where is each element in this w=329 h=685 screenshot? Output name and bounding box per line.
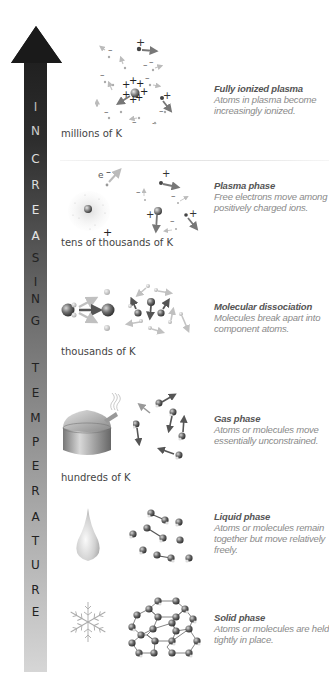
axis-letter: E bbox=[24, 605, 47, 619]
phase-description: Free electrons move among positively cha… bbox=[214, 191, 329, 213]
axis-letter: E bbox=[24, 203, 47, 217]
phase-description: Molecules break apart into component ato… bbox=[214, 312, 329, 334]
axis-letter: R bbox=[24, 178, 47, 192]
axis-letter: A bbox=[24, 510, 47, 524]
phase-title: Solid phase bbox=[214, 612, 329, 623]
axis-letter: T bbox=[24, 361, 47, 375]
section-divider bbox=[60, 160, 329, 161]
svg-text:–: – bbox=[170, 216, 175, 226]
svg-text:–: – bbox=[159, 106, 164, 116]
temperature-label: hundreds of K bbox=[61, 472, 131, 483]
svg-text:–: – bbox=[136, 187, 141, 197]
svg-text:–: – bbox=[108, 45, 113, 55]
phase-caption: Fully ionized plasma Atoms in plasma bec… bbox=[214, 83, 329, 116]
axis-letter: N bbox=[24, 292, 47, 306]
phase-description: Atoms or molecules are held tightly in p… bbox=[214, 623, 329, 645]
temperature-label: thousands of K bbox=[61, 346, 136, 357]
svg-text:+: + bbox=[189, 208, 197, 219]
axis-letter: I bbox=[24, 100, 47, 114]
phase-caption: Liquid phase Atoms or molecules remain t… bbox=[214, 511, 329, 555]
svg-text:+: + bbox=[136, 36, 145, 49]
svg-text:–: – bbox=[145, 73, 150, 83]
axis-letter: I bbox=[24, 275, 47, 289]
svg-text:–: – bbox=[149, 57, 154, 67]
phase-title: Liquid phase bbox=[214, 511, 329, 522]
svg-text:+: + bbox=[163, 90, 171, 101]
axis-letter: C bbox=[24, 152, 47, 166]
liquid-molecules-icon bbox=[127, 508, 197, 566]
axis-letter: R bbox=[24, 583, 47, 597]
phase-caption: Gas phase Atoms or molecules move essent… bbox=[214, 413, 329, 446]
axis-letter: T bbox=[24, 534, 47, 548]
svg-text:–: – bbox=[100, 70, 105, 80]
boiling-pot-icon bbox=[60, 390, 130, 460]
svg-text:+: + bbox=[146, 209, 154, 220]
electron-label: e bbox=[98, 170, 104, 180]
axis-letter: N bbox=[24, 124, 47, 138]
phase-title: Plasma phase bbox=[214, 180, 329, 191]
axis-letter: S bbox=[24, 251, 47, 265]
phase-title: Fully ionized plasma bbox=[214, 83, 329, 94]
axis-letter: P bbox=[24, 435, 47, 449]
axis-letter: E bbox=[24, 386, 47, 400]
svg-text:+: + bbox=[135, 92, 143, 103]
phase-caption: Plasma phase Free electrons move among p… bbox=[214, 180, 329, 213]
phase-caption: Solid phase Atoms or molecules are held … bbox=[214, 612, 329, 645]
crystal-lattice-icon bbox=[127, 597, 205, 662]
axis-letter: A bbox=[24, 229, 47, 243]
svg-text:–: – bbox=[104, 107, 109, 117]
axis-letter: U bbox=[24, 558, 47, 572]
axis-letter: M bbox=[24, 411, 47, 425]
water-drop-icon bbox=[74, 507, 102, 563]
svg-text:–: – bbox=[171, 191, 176, 201]
phase-description: Atoms or molecules remain together but m… bbox=[214, 522, 329, 555]
snowflake-icon bbox=[67, 600, 109, 645]
axis-letter: G bbox=[24, 314, 47, 328]
gas-molecules-icon bbox=[133, 393, 193, 468]
molecule-split-icon bbox=[60, 278, 210, 343]
temperature-label: millions of K bbox=[61, 128, 122, 139]
axis-letter: R bbox=[24, 484, 47, 498]
svg-text:–: – bbox=[143, 60, 148, 70]
ionized-plasma-icon: + + + + + + + + + ––– ––– ––– bbox=[95, 30, 185, 130]
svg-text:–: – bbox=[106, 166, 111, 177]
axis-letter: E bbox=[24, 459, 47, 473]
phase-description: Atoms or molecules move essentially unco… bbox=[214, 424, 329, 446]
phase-title: Gas phase bbox=[214, 413, 329, 424]
plasma-atom-icon: + e – + + + – – – bbox=[65, 163, 210, 243]
phase-title: Molecular dissociation bbox=[214, 301, 329, 312]
svg-text:+: + bbox=[162, 168, 170, 179]
temperature-label: tens of thousands of K bbox=[61, 237, 173, 248]
phase-description: Atoms in plasma become increasingly ioni… bbox=[214, 94, 329, 116]
phase-caption: Molecular dissociation Molecules break a… bbox=[214, 301, 329, 334]
